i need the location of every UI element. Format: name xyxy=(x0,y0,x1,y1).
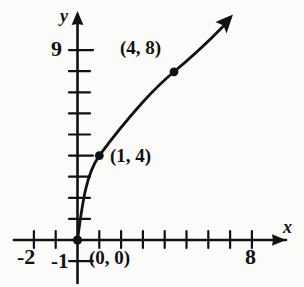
point-label-1-4: (1, 4) xyxy=(110,146,151,165)
x-tick-label-neg2: -2 xyxy=(17,246,35,268)
y-tick-label-neg1: -1 xyxy=(51,251,69,272)
point-label-4-8: (4, 8) xyxy=(120,38,161,57)
point-label-origin: (0, 0) xyxy=(89,248,130,267)
y-axis-arrowhead xyxy=(72,11,84,25)
data-point-1-4 xyxy=(95,151,104,160)
data-point-4-8 xyxy=(170,67,179,76)
y-axis-label: y xyxy=(60,7,68,25)
x-axis-label: x xyxy=(283,218,292,236)
graph-figure: y x 9 -1 -2 8 (0, 0) (1, 4) (4, 8) xyxy=(0,0,304,287)
x-tick-label-8: 8 xyxy=(245,246,256,268)
data-point-origin xyxy=(73,235,82,244)
y-tick-label-9: 9 xyxy=(51,38,62,60)
y-axis-ticks xyxy=(69,50,93,261)
